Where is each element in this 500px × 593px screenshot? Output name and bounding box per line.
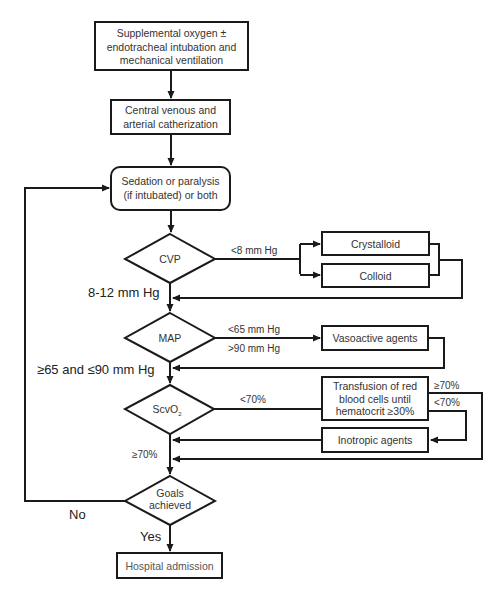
flowchart: Supplemental oxygen ± endotracheal intub… [0, 0, 500, 593]
node-vasoactive-agents: Vasoactive agents [322, 326, 428, 350]
node-hospital-admission: Hospital admission [117, 553, 222, 578]
node-colloid: Colloid [322, 264, 429, 287]
edge-label-transfusion-low: <70% [434, 397, 460, 408]
edge-merge-fluids [429, 244, 439, 275]
decision-label-main: ScvO [152, 403, 178, 415]
decision-goals-achieved: Goals achieved [125, 476, 215, 525]
node-label: Hospital admission [125, 560, 213, 572]
edge-label-map-ok: ≥65 and ≤90 mm Hg [37, 362, 155, 377]
edge-label-cvp-low: <8 mm Hg [231, 245, 277, 256]
edge-label-scvo2-ok: ≥70% [132, 449, 158, 460]
edge-label-yes: Yes [140, 529, 162, 544]
node-label: Inotropic agents [338, 434, 413, 446]
node-central-venous-catheterization: Central venous and arterial catherizatio… [111, 100, 230, 134]
node-label: Transfusion of red [333, 380, 417, 392]
edge-label-transfusion-ok: ≥70% [434, 380, 460, 391]
decision-label: ScvO2 [152, 403, 182, 417]
edge-label-scvo2-low: <70% [240, 394, 266, 405]
node-label: mechanical ventilation [120, 54, 223, 66]
decision-map: MAP [125, 313, 215, 362]
node-supplemental-oxygen: Supplemental oxygen ± endotracheal intub… [95, 22, 248, 70]
node-label: arterial catherization [123, 118, 218, 130]
decision-label: Goals [156, 487, 183, 499]
decision-label: achieved [149, 499, 191, 511]
node-label: endotracheal intubation and [107, 41, 237, 53]
edge-label-cvp-ok: 8-12 mm Hg [88, 285, 160, 300]
node-label: (if intubated) or both [124, 189, 218, 201]
edge-label-no: No [69, 507, 86, 522]
node-label: Crystalloid [351, 238, 400, 250]
edge-transfusion-low-to-inotropic [428, 411, 466, 440]
node-inotropic-agents: Inotropic agents [322, 428, 428, 452]
node-label: hematocrit ≥30% [336, 405, 415, 417]
edge-label-map-low: <65 mm Hg [228, 324, 280, 335]
node-label: Sedation or paralysis [121, 175, 219, 187]
node-label: Vasoactive agents [332, 332, 417, 344]
node-label: Central venous and [125, 104, 216, 116]
decision-cvp: CVP [125, 234, 215, 283]
node-label: Colloid [359, 270, 391, 282]
node-transfusion: Transfusion of red blood cells until hem… [322, 377, 428, 420]
decision-label: MAP [159, 332, 182, 344]
edge-label-map-high: >90 mm Hg [228, 343, 280, 354]
node-sedation: Sedation or paralysis (if intubated) or … [111, 167, 230, 210]
decision-scvo2: ScvO2 [125, 385, 214, 434]
node-label: blood cells until [339, 393, 411, 405]
node-label: Supplemental oxygen ± [117, 27, 227, 39]
edge-goals-no-loop [25, 188, 125, 501]
decision-label: CVP [159, 253, 181, 265]
node-crystalloid: Crystalloid [322, 232, 429, 255]
